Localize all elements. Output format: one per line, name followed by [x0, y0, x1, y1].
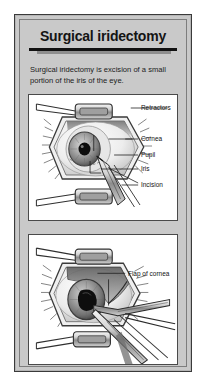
illustration-card: Surgical iridectomy Surgical iridectomy … — [14, 14, 192, 372]
pupil — [78, 143, 90, 156]
retractor-bottom — [36, 332, 110, 349]
description-text: Surgical iridectomy is excision of a sma… — [30, 64, 176, 86]
label-flap-of-cornea: Flap of cornea — [128, 270, 170, 278]
page-title: Surgical iridectomy — [25, 27, 181, 45]
retractor-top — [36, 248, 112, 264]
label-cornea: Cornea — [141, 135, 162, 142]
page-title-block: Surgical iridectomy — [25, 27, 181, 59]
pupil-highlight — [81, 145, 84, 148]
corneal-flap-illustration: Flap of cornea — [29, 235, 177, 364]
retractor-bottom — [36, 189, 112, 206]
panel-eye-incision: Retractors Cornea Pupil Iris Incision — [28, 94, 178, 221]
label-incision: Incision — [141, 181, 163, 188]
title-rule-shadow — [37, 51, 171, 54]
label-retractors: Retractors — [141, 104, 171, 111]
panel-corneal-flap: Flap of cornea — [28, 234, 178, 365]
label-pupil: Pupil — [141, 151, 156, 159]
card-inner-frame: Surgical iridectomy Surgical iridectomy … — [19, 19, 187, 367]
label-iris: Iris — [141, 165, 150, 172]
title-rule — [29, 48, 177, 51]
eye-incision-illustration: Retractors Cornea Pupil Iris Incision — [29, 95, 177, 220]
